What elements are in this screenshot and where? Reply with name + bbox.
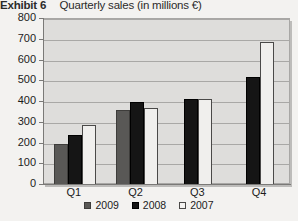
x-axis-label-Q2: Q2 — [116, 187, 156, 198]
legend-swatch-2008 — [132, 202, 139, 209]
y-tick-300 — [39, 122, 44, 123]
y-axis-label-300: 300 — [0, 116, 36, 127]
x-axis-label-Q3: Q3 — [177, 187, 217, 198]
y-axis-label-100: 100 — [0, 157, 36, 168]
bar-Q2-2008 — [130, 102, 144, 185]
legend-label-2008: 2008 — [143, 200, 166, 211]
legend-item-2009[interactable]: 2009 — [84, 200, 118, 211]
bar-Q1-2007 — [82, 125, 96, 185]
bar-Q4-2008 — [246, 77, 260, 185]
plot-area — [43, 18, 290, 184]
y-tick-200 — [39, 143, 44, 144]
y-tick-600 — [39, 60, 44, 61]
bar-Q4-2007 — [260, 42, 274, 185]
legend-label-2009: 2009 — [95, 200, 118, 211]
bar-Q1-2009 — [54, 144, 68, 186]
legend-label-2007: 2007 — [190, 200, 213, 211]
y-axis-label-400: 400 — [0, 95, 36, 106]
chart-title-bar: Exhibit 6 Quarterly sales (in millions €… — [0, 0, 298, 11]
bar-Q1-2008 — [68, 135, 82, 185]
y-axis-label-800: 800 — [0, 12, 36, 23]
y-tick-700 — [39, 39, 44, 40]
y-tick-800 — [39, 18, 44, 19]
exhibit-label: Exhibit 6 — [0, 0, 46, 11]
bar-Q2-2009 — [116, 110, 130, 185]
x-axis-label-Q4: Q4 — [239, 187, 279, 198]
x-axis-line — [43, 184, 291, 185]
page-title: Quarterly sales (in millions €) — [60, 0, 202, 11]
x-axis-label-Q1: Q1 — [54, 187, 94, 198]
y-tick-0 — [39, 184, 44, 185]
chart-legend: 200920082007 — [0, 200, 298, 211]
y-axis-label-200: 200 — [0, 137, 36, 148]
y-axis-label-700: 700 — [0, 33, 36, 44]
gridline-700 — [44, 40, 289, 41]
chart-figure: Exhibit 6 Quarterly sales (in millions €… — [0, 0, 298, 221]
legend-swatch-2007 — [179, 202, 186, 209]
y-tick-400 — [39, 101, 44, 102]
gridline-600 — [44, 61, 289, 62]
y-axis-label-500: 500 — [0, 74, 36, 85]
y-tick-100 — [39, 163, 44, 164]
y-axis-label-600: 600 — [0, 54, 36, 65]
legend-item-2007[interactable]: 2007 — [179, 200, 213, 211]
y-tick-500 — [39, 80, 44, 81]
bar-Q2-2007 — [144, 108, 158, 185]
legend-swatch-2009 — [84, 202, 91, 209]
y-axis-label-0: 0 — [0, 178, 36, 189]
bar-Q3-2008 — [184, 99, 198, 185]
gridline-800 — [44, 19, 289, 20]
bar-Q3-2007 — [198, 99, 212, 185]
legend-item-2008[interactable]: 2008 — [132, 200, 166, 211]
